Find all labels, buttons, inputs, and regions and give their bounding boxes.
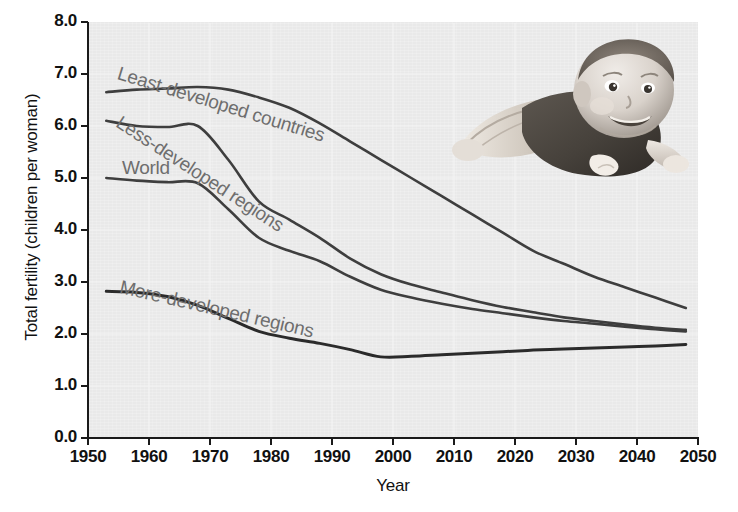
y-tick-mark [81, 73, 88, 75]
x-tick-mark [148, 438, 150, 445]
chart-root: Least-developed countries Less-developed… [0, 0, 738, 512]
y-tick-label: 8.0 [31, 11, 77, 31]
y-tick-label: 5.0 [31, 167, 77, 187]
y-tick-mark [81, 385, 88, 387]
curve-label-world: World [122, 157, 170, 179]
x-tick-label: 1970 [180, 447, 240, 467]
y-tick-label: 3.0 [31, 271, 77, 291]
x-tick-label: 2040 [607, 447, 667, 467]
x-tick-mark [209, 438, 211, 445]
x-tick-mark [331, 438, 333, 445]
x-tick-mark [392, 438, 394, 445]
y-tick-mark [81, 125, 88, 127]
x-axis-title: Year [88, 476, 698, 496]
y-tick-label: 0.0 [31, 427, 77, 447]
x-tick-mark [87, 438, 89, 445]
y-tick-label: 2.0 [31, 323, 77, 343]
y-tick-label: 1.0 [31, 375, 77, 395]
y-tick-label: 7.0 [31, 63, 77, 83]
y-tick-mark [81, 281, 88, 283]
y-tick-label: 6.0 [31, 115, 77, 135]
x-tick-label: 1980 [241, 447, 301, 467]
y-tick-mark [81, 333, 88, 335]
x-tick-mark [636, 438, 638, 445]
x-tick-label: 2030 [546, 447, 606, 467]
y-tick-mark [81, 21, 88, 23]
y-tick-label: 4.0 [31, 219, 77, 239]
x-tick-label: 2010 [424, 447, 484, 467]
x-tick-mark [575, 438, 577, 445]
x-tick-mark [453, 438, 455, 445]
x-tick-label: 2000 [363, 447, 423, 467]
x-tick-label: 1990 [302, 447, 362, 467]
x-tick-label: 1960 [119, 447, 179, 467]
x-tick-mark [514, 438, 516, 445]
x-tick-label: 2020 [485, 447, 545, 467]
x-tick-mark [697, 438, 699, 445]
y-tick-mark [81, 229, 88, 231]
baby-photo [452, 28, 708, 188]
x-tick-mark [270, 438, 272, 445]
y-tick-mark [81, 177, 88, 179]
y-axis-title: Total fertility (children per woman) [22, 32, 42, 402]
x-tick-label: 2050 [668, 447, 728, 467]
x-tick-label: 1950 [58, 447, 118, 467]
